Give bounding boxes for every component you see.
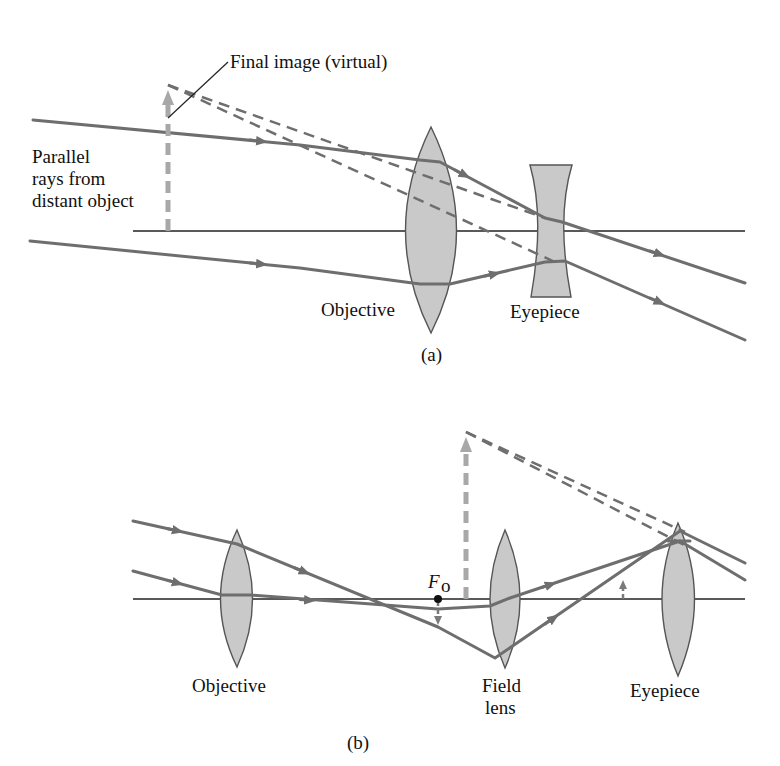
figure-b-terrestrial-telescope: F o Objective Field lens Eyepiece (b) xyxy=(133,432,745,754)
ray-arrow xyxy=(650,251,660,254)
focal-point-marker xyxy=(434,595,442,603)
final-image-arrowhead-icon xyxy=(162,90,174,105)
telescope-diagrams: Final image (virtual) Parallel rays from… xyxy=(0,0,780,766)
parallel-rays-label-1: Parallel xyxy=(32,146,90,167)
ray-lower-a xyxy=(30,241,745,340)
virtual-ray-lower xyxy=(168,85,555,262)
field-lens-label-2: lens xyxy=(485,697,516,718)
field-lens-label-1: Field xyxy=(482,675,522,696)
ray-upper-a xyxy=(33,120,745,283)
caption-b: (b) xyxy=(347,732,369,754)
parallel-rays-label-2: rays from xyxy=(32,168,106,189)
figure-a-galilean-telescope: Final image (virtual) Parallel rays from… xyxy=(30,51,745,366)
objective-lens-icon xyxy=(221,530,253,667)
eyepiece-label-b: Eyepiece xyxy=(630,680,700,701)
final-image-label: Final image (virtual) xyxy=(230,51,387,73)
ray-arrow xyxy=(545,618,554,624)
ray-arrow xyxy=(300,599,310,600)
caption-a: (a) xyxy=(421,344,442,366)
final-image-arrowhead-icon xyxy=(460,437,472,452)
intermediate-image-arrowhead-icon xyxy=(434,616,442,625)
eyepiece-label-a: Eyepiece xyxy=(510,301,580,322)
ray-arrow xyxy=(542,584,551,587)
objective-label-a: Objective xyxy=(321,299,395,320)
focal-point-subscript: o xyxy=(441,575,451,596)
objective-label-b: Objective xyxy=(192,675,266,696)
focal-point-label: F xyxy=(427,571,440,592)
ray-arrow xyxy=(250,140,262,141)
erect-image-arrowhead-icon xyxy=(619,580,627,589)
ray-arrow xyxy=(168,580,178,583)
parallel-rays-label-3: distant object xyxy=(32,190,135,211)
virtual-ray-lower-b xyxy=(466,432,685,532)
ray-arrow xyxy=(455,170,465,175)
ray-arrow xyxy=(295,568,305,572)
ray-arrow xyxy=(650,298,660,302)
ray-arrow xyxy=(250,263,262,264)
virtual-ray-upper-b xyxy=(466,432,690,548)
